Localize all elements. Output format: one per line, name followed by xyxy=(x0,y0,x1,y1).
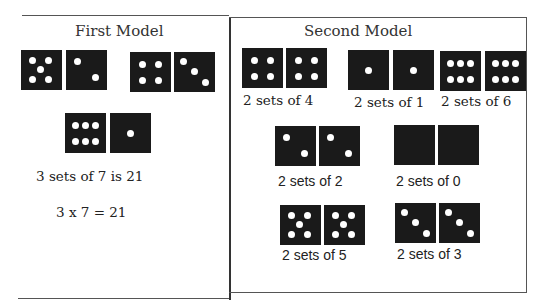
pip-dot xyxy=(332,231,339,238)
pip-dot xyxy=(29,76,36,83)
pip-dot xyxy=(251,73,258,80)
first-model-equation: 3 x 7 = 21 xyxy=(56,204,126,220)
pip-dot xyxy=(502,76,509,83)
die-face-3 xyxy=(174,52,215,92)
pip-dot xyxy=(191,68,198,75)
pip-dot xyxy=(410,67,417,74)
pip-dot xyxy=(82,138,89,145)
pip-dot xyxy=(139,77,146,84)
pip-dot xyxy=(311,73,318,80)
dice-group-label: 2 sets of 0 xyxy=(396,173,461,189)
die-face-3 xyxy=(395,203,436,243)
pip-dot xyxy=(139,61,146,68)
die-face-4 xyxy=(286,48,327,88)
die-face-1 xyxy=(348,50,389,90)
die-face-2 xyxy=(319,126,360,166)
pip-dot xyxy=(267,73,274,80)
pip-dot xyxy=(348,212,355,219)
pip-dot xyxy=(251,57,258,64)
pip-dot xyxy=(365,67,372,74)
pip-dot xyxy=(327,134,334,141)
first-model-statement: 3 sets of 7 is 21 xyxy=(36,168,143,184)
pip-dot xyxy=(296,221,303,228)
dice-group-label: 2 sets of 5 xyxy=(282,247,347,263)
dice-group-label: 2 sets of 1 xyxy=(354,94,424,110)
pip-dot xyxy=(447,76,454,83)
dice-group-label: 2 sets of 4 xyxy=(243,92,313,108)
pip-dot xyxy=(447,60,454,67)
second-model-right-border xyxy=(526,17,527,292)
pip-dot xyxy=(512,76,519,83)
die-face-4 xyxy=(242,48,283,88)
pip-dot xyxy=(92,138,99,145)
dice-group-label: 2 sets of 3 xyxy=(397,246,462,262)
pip-dot xyxy=(467,76,474,83)
die-face-4 xyxy=(130,52,171,92)
pip-dot xyxy=(74,58,81,65)
die-face-1 xyxy=(110,113,151,153)
pip-dot xyxy=(295,57,302,64)
pip-dot xyxy=(202,79,209,86)
pip-dot xyxy=(348,231,355,238)
die-face-2 xyxy=(275,126,316,166)
pip-dot xyxy=(304,212,311,219)
pip-dot xyxy=(492,60,499,67)
pip-dot xyxy=(412,219,419,226)
pip-dot xyxy=(401,209,408,216)
pip-dot xyxy=(304,231,311,238)
die-face-6 xyxy=(65,113,106,153)
pip-dot xyxy=(445,209,452,216)
pip-dot xyxy=(29,57,36,64)
die-face-0 xyxy=(394,125,435,165)
pip-dot xyxy=(467,230,474,237)
pip-dot xyxy=(288,231,295,238)
pip-dot xyxy=(45,76,52,83)
pip-dot xyxy=(127,130,134,137)
die-face-3 xyxy=(439,203,480,243)
pip-dot xyxy=(82,122,89,129)
second-model-bottom-border xyxy=(229,292,527,293)
first-model-bottom-border xyxy=(18,298,229,299)
pip-dot xyxy=(345,150,352,157)
pip-dot xyxy=(512,60,519,67)
pip-dot xyxy=(92,74,99,81)
pip-dot xyxy=(457,76,464,83)
pip-dot xyxy=(340,221,347,228)
pip-dot xyxy=(457,60,464,67)
die-face-1 xyxy=(393,50,434,90)
pip-dot xyxy=(72,138,79,145)
pip-dot xyxy=(72,122,79,129)
pip-dot xyxy=(283,134,290,141)
pip-dot xyxy=(37,66,44,73)
second-model-title: Second Model xyxy=(304,22,412,40)
pip-dot xyxy=(332,212,339,219)
pip-dot xyxy=(311,57,318,64)
pip-dot xyxy=(288,212,295,219)
pip-dot xyxy=(423,230,430,237)
pip-dot xyxy=(180,58,187,65)
die-face-6 xyxy=(440,51,481,91)
pip-dot xyxy=(45,57,52,64)
first-model-title: First Model xyxy=(75,22,164,40)
dice-group-label: 2 sets of 2 xyxy=(278,173,343,189)
dice-group-label: 2 sets of 6 xyxy=(441,93,511,109)
die-face-5 xyxy=(21,50,62,90)
pip-dot xyxy=(467,60,474,67)
first-model-top-border xyxy=(22,15,229,16)
die-face-6 xyxy=(485,51,526,91)
pip-dot xyxy=(502,60,509,67)
die-face-5 xyxy=(324,205,365,245)
panel-divider xyxy=(229,17,231,300)
pip-dot xyxy=(267,57,274,64)
pip-dot xyxy=(155,61,162,68)
die-face-5 xyxy=(280,205,321,245)
pip-dot xyxy=(301,150,308,157)
pip-dot xyxy=(155,77,162,84)
die-face-2 xyxy=(66,50,107,90)
die-face-0 xyxy=(438,125,479,165)
pip-dot xyxy=(295,73,302,80)
pip-dot xyxy=(492,76,499,83)
second-model-top-border xyxy=(229,17,527,18)
pip-dot xyxy=(456,219,463,226)
pip-dot xyxy=(92,122,99,129)
